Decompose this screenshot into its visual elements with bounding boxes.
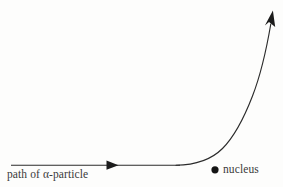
alpha-particle-scattering-diagram: path of α-particle nucleus [0, 0, 283, 187]
midline-arrow-icon [107, 161, 119, 170]
nucleus-dot-icon [211, 166, 218, 173]
path-of-alpha-particle-label: path of α-particle [7, 168, 88, 181]
diagram-canvas [0, 0, 283, 187]
trajectory-arrow-icon [265, 11, 275, 28]
nucleus-label: nucleus [223, 163, 259, 176]
deflected-trajectory-curve [176, 24, 271, 165]
